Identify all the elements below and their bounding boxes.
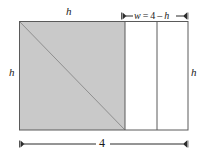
expr-total-4: 4 [150, 10, 155, 21]
expr-minus: – [157, 10, 162, 21]
dimension-arrow-left-top [121, 13, 126, 20]
expr-equals: = [143, 10, 149, 21]
expr-variable-w: w [134, 10, 141, 21]
dimension-arrow-right-top [183, 13, 188, 20]
label-left-height-h: h [9, 67, 15, 78]
dimension-arrow-right-bottom [183, 141, 188, 148]
label-bottom-width-4: 4 [99, 137, 105, 149]
label-width-expression: w=4–h [134, 11, 169, 21]
label-top-height-h: h [66, 6, 72, 17]
dimension-arrow-left-bottom [19, 141, 24, 148]
expr-subtracted-h: h [164, 10, 169, 21]
geometry-figure: h h h 4 w=4–h [0, 0, 205, 159]
label-right-height-h: h [191, 67, 197, 78]
